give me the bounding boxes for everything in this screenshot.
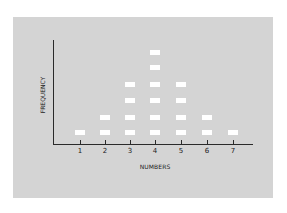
x-tick [181, 140, 182, 144]
y-axis [53, 40, 54, 144]
x-tick [233, 140, 234, 144]
y-axis-label: FREQUENCY [39, 77, 46, 114]
x-tick [130, 140, 131, 144]
data-marker [150, 82, 160, 87]
x-tick-label: 7 [226, 147, 240, 155]
x-axis-label: NUMBERS [120, 163, 190, 170]
data-marker [150, 115, 160, 120]
data-marker [176, 130, 186, 135]
data-marker [176, 98, 186, 103]
data-marker [176, 115, 186, 120]
data-marker [150, 50, 160, 55]
data-marker [100, 130, 110, 135]
data-marker [150, 98, 160, 103]
x-tick-label: 2 [98, 147, 112, 155]
x-tick-label: 4 [148, 147, 162, 155]
x-axis [53, 144, 253, 145]
x-tick [105, 140, 106, 144]
chart-panel [13, 17, 273, 198]
x-tick-label: 5 [174, 147, 188, 155]
x-tick [80, 140, 81, 144]
data-marker [202, 115, 212, 120]
data-marker [125, 82, 135, 87]
data-marker [125, 115, 135, 120]
data-marker [176, 82, 186, 87]
x-tick-label: 6 [200, 147, 214, 155]
data-marker [125, 130, 135, 135]
x-tick [207, 140, 208, 144]
x-tick [155, 140, 156, 144]
data-marker [125, 98, 135, 103]
data-marker [150, 130, 160, 135]
data-marker [202, 130, 212, 135]
data-marker [100, 115, 110, 120]
data-marker [228, 130, 238, 135]
data-marker [150, 65, 160, 70]
x-tick-label: 3 [123, 147, 137, 155]
data-marker [75, 130, 85, 135]
x-tick-label: 1 [73, 147, 87, 155]
